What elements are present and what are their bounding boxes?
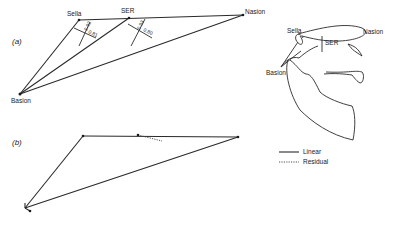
panel-a-lines [20,15,243,94]
ser-label: SER [121,7,135,14]
legend-linear-label: Linear [303,148,322,155]
skull-basion-label: Basion [266,69,286,76]
skull-outline [281,26,366,140]
b-point-nasion [237,136,240,139]
b-point-sella [82,135,85,138]
legend: Linear Residual [279,148,329,165]
basion-point [19,93,22,96]
panel-a-label: (a) [12,37,22,46]
legend-residual-label: Residual [303,158,329,165]
b-point-basion [29,210,32,213]
b-point-ser [137,134,140,137]
ser-point [128,17,131,20]
skull-sella-label: Sella [287,27,302,34]
sella-point [78,19,81,22]
nasion-label: Nasion [245,8,266,15]
nasion-point [242,14,245,17]
figure-canvas: (a) Sella SER Nasion Basion 0.92 0.81 0.… [0,0,396,225]
skull-ser-label: SER [325,39,339,46]
basion-label: Basion [11,97,31,104]
ser-value-2: 0.80 [143,26,155,36]
sella-label: Sella [67,10,82,17]
panel-b-lines [25,135,238,211]
panel-b-label: (b) [12,138,22,147]
skull-nasion-label: Nasion [363,28,384,35]
